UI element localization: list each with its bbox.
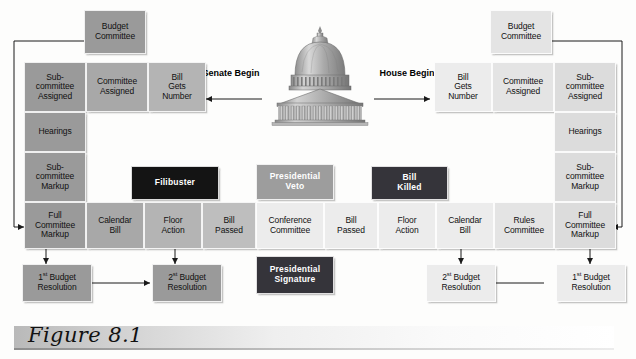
legislative-process-diagram: Senate Begin House Begin Budget Committe… — [0, 0, 636, 359]
main-row-cell-full-committee-markup-senate[interactable]: Full Committee Markup — [24, 202, 86, 249]
senate-budget-committee-box[interactable]: Budget Committee — [84, 10, 146, 54]
figure-caption-text: Figure 8.1 — [28, 323, 143, 347]
house-begin-line2: Begin — [410, 68, 435, 78]
senate-begin-line1: Senate — [202, 68, 232, 78]
senate-begin-line2: Begin — [235, 68, 260, 78]
house-second-budget-resolution-box[interactable]: 2st Budget Resolution — [426, 264, 496, 302]
main-row-cell-full-committee-markup-house[interactable]: Full Committee Markup — [554, 202, 616, 249]
main-row-cell-rules-committee[interactable]: Rules Committee — [494, 202, 554, 249]
house-hearings-box[interactable]: Hearings — [554, 112, 616, 152]
bill-killed-box[interactable]: Bill Killed — [371, 166, 448, 200]
main-row-cell-calendar-bill-house[interactable]: Calendar Bill — [436, 202, 494, 249]
figure-caption: Figure 8.1 — [0, 315, 636, 359]
senate-subcommittee-assigned-box[interactable]: Sub- committee Assigned — [24, 62, 86, 112]
senate-subcommittee-markup-box[interactable]: Sub- committee Markup — [24, 152, 86, 202]
main-row-cell-conference-committee[interactable]: Conference Committee — [256, 202, 324, 249]
figure-caption-rule — [14, 348, 614, 350]
house-budget-committee-box[interactable]: Budget Committee — [490, 10, 552, 54]
senate-begin-label: Senate Begin — [196, 68, 266, 79]
main-row-cell-bill-passed-senate[interactable]: Bill Passed — [202, 202, 256, 249]
filibuster-box[interactable]: Filibuster — [131, 166, 219, 200]
house-first-budget-resolution-box[interactable]: 1st Budget Resolution — [556, 264, 626, 302]
capitol-building-icon — [265, 20, 375, 128]
presidential-signature-box[interactable]: Presidential Signature — [256, 256, 334, 294]
presidential-veto-box[interactable]: Presidential Veto — [256, 164, 334, 200]
main-row-cell-calendar-bill-senate[interactable]: Calendar Bill — [86, 202, 144, 249]
house-committee-assigned-box[interactable]: Committee Assigned — [492, 62, 554, 112]
senate-first-budget-resolution-box[interactable]: 1st Budget Resolution — [22, 264, 92, 302]
house-begin-label: House Begin — [372, 68, 442, 79]
main-row-cell-floor-action-house[interactable]: Floor Action — [378, 202, 436, 249]
senate-hearings-box[interactable]: Hearings — [24, 112, 86, 152]
senate-bill-gets-number-box[interactable]: Bill Gets Number — [148, 62, 206, 112]
house-begin-line1: House — [379, 68, 407, 78]
house-subcommittee-assigned-box[interactable]: Sub- committee Assigned — [554, 62, 616, 112]
main-row-cell-bill-passed-house[interactable]: Bill Passed — [324, 202, 378, 249]
senate-committee-assigned-box[interactable]: Committee Assigned — [86, 62, 148, 112]
senate-second-budget-resolution-box[interactable]: 2st Budget Resolution — [152, 264, 222, 302]
house-subcommittee-markup-box[interactable]: Sub- committee Markup — [554, 152, 616, 202]
main-row-cell-floor-action-senate[interactable]: Floor Action — [144, 202, 202, 249]
house-bill-gets-number-box[interactable]: Bill Gets Number — [434, 62, 492, 112]
